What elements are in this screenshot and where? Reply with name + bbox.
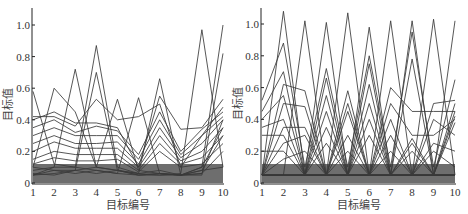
x-axis-label: 目标编号 [337,198,381,212]
y-axis-label: 目标值 [1,88,15,121]
series-line [33,46,223,176]
series-line [262,27,455,175]
series-line [33,79,223,175]
x-tick-label: 6 [366,186,372,198]
series-line [33,53,223,175]
series-lines [262,11,455,183]
x-tick-label: 2 [281,186,287,198]
y-tick-label: 0.4 [245,113,259,125]
y-tick-label: 0.8 [245,50,259,62]
x-tick-label: 7 [157,186,163,198]
y-tick-label: 1.0 [16,19,30,31]
y-axis-label: 目标值 [231,87,245,120]
y-tick-label: 0.2 [245,145,259,157]
x-tick-label: 1 [30,186,36,198]
x-tick-label: 6 [136,186,142,198]
x-tick-label: 4 [94,186,100,198]
y-tick-label: 1.0 [245,18,259,30]
x-tick-label: 10 [450,186,462,198]
y-tick-label: 0.4 [16,114,30,126]
x-tick-label: 4 [324,186,330,198]
x-tick-label: 9 [431,186,437,198]
x-tick-label: 2 [51,186,57,198]
y-tick-label: 0.6 [245,82,259,94]
chart-figure: 00.20.40.60.81.012345678910目标编号目标值 00.20… [0,0,468,214]
x-tick-label: 8 [409,186,415,198]
x-tick-label: 3 [302,186,308,198]
x-tick-label: 9 [199,186,205,198]
right-plot: 00.20.40.60.81.012345678910目标编号目标值 [231,8,461,212]
y-tick-label: 0.8 [16,51,30,63]
x-tick-label: 5 [115,186,121,198]
left-plot: 00.20.40.60.81.012345678910目标编号目标值 [1,8,229,212]
x-tick-label: 1 [259,186,265,198]
x-tick-label: 7 [388,186,394,198]
x-tick-label: 5 [345,186,351,198]
x-tick-label: 3 [72,186,78,198]
x-tick-label: 10 [218,186,230,198]
series-line [262,13,455,175]
x-axis-label: 目标编号 [106,198,150,212]
x-tick-label: 8 [178,186,184,198]
y-tick-label: 0.2 [16,145,30,157]
series-lines [33,25,223,183]
y-tick-label: 0.6 [16,82,30,94]
